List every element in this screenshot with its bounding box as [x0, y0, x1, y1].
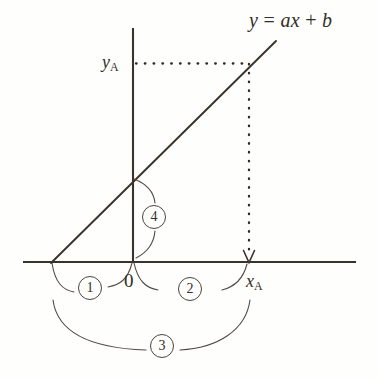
diagram-canvas	[0, 0, 378, 379]
x-value-label: xA	[246, 272, 263, 293]
y-value-subscript: A	[110, 60, 119, 74]
function-line	[51, 41, 276, 263]
brace-arc-4-top	[134, 179, 155, 203]
origin-label: 0	[124, 271, 134, 290]
linear-function-diagram: y = ax + b yA xA 0 1 2 3 4	[0, 0, 378, 379]
equation-constant: b	[322, 9, 332, 31]
segment-marker-3: 3	[150, 334, 174, 358]
brace-arc-4-bottom	[136, 231, 155, 258]
brace-arc-3-left	[53, 300, 146, 350]
segment-marker-4: 4	[142, 205, 166, 229]
y-value-label: yA	[102, 53, 119, 74]
segment-marker-2: 2	[178, 277, 202, 301]
brace-arc-3-right	[180, 300, 250, 350]
arrowhead-down-icon	[244, 251, 255, 263]
equation-label: y = ax + b	[249, 10, 332, 30]
x-value-base: x	[246, 271, 254, 291]
segment-marker-1: 1	[78, 276, 102, 300]
brace-arc-1-left	[52, 263, 74, 292]
y-value-base: y	[102, 52, 110, 72]
brace-arc-2-left	[134, 263, 158, 290]
brace-arc-2-right	[222, 264, 247, 290]
x-value-subscript: A	[254, 279, 263, 293]
equation-lhs: y	[249, 9, 258, 31]
equation-plus: +	[300, 9, 322, 31]
equation-rhs: ax	[280, 9, 299, 31]
equation-equals: =	[258, 9, 280, 31]
